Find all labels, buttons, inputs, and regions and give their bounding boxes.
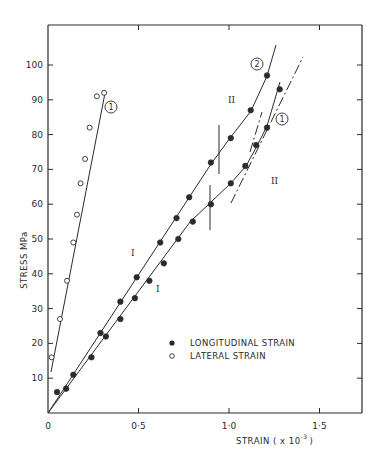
- longitudinal-data-point: [118, 299, 124, 305]
- y-tick-label: 30: [32, 304, 44, 314]
- longitudinal-data-point: [54, 389, 60, 395]
- stress-strain-chart: 102030405060708090100 00·51·01·5 STRESS …: [0, 0, 379, 463]
- longitudinal-data-point: [71, 372, 77, 378]
- lateral-data-point: [65, 278, 70, 283]
- longitudinal-data-point: [242, 163, 248, 169]
- longitudinal-data-point: [89, 355, 95, 361]
- longitudinal-data-point: [228, 135, 234, 141]
- longitudinal-data-point: [208, 160, 214, 166]
- longitudinal-data-point: [103, 334, 109, 340]
- stage-I-label-curve-2: I: [131, 248, 135, 258]
- legend-label-longitudinal: LONGITUDINAL STRAIN: [190, 338, 295, 348]
- lateral-data-point: [83, 156, 88, 161]
- svg-text:2: 2: [254, 60, 259, 69]
- y-tick-label: 40: [32, 269, 44, 279]
- lateral-data-point: [78, 181, 83, 186]
- longitudinal-data-point: [186, 194, 192, 200]
- svg-text:1: 1: [279, 115, 284, 124]
- longitudinal-data-point: [253, 142, 259, 148]
- y-tick-label: 70: [32, 164, 44, 174]
- longitudinal-data-point: [134, 274, 140, 280]
- lateral-data-point: [94, 94, 99, 99]
- longitudinal-data-point: [176, 236, 182, 242]
- stage-II-label-curve-2: II: [228, 95, 236, 105]
- longitudinal-data-point: [161, 261, 167, 267]
- longitudinal-data-point: [63, 386, 69, 392]
- lateral-data-point: [57, 317, 62, 322]
- y-tick-label: 50: [32, 234, 44, 244]
- legend-open-marker: [170, 354, 175, 359]
- lateral-data-point: [71, 240, 76, 245]
- y-tick-label: 100: [26, 60, 43, 70]
- circled-label-longitudinal-1: 1: [276, 113, 288, 125]
- longitudinal-data-point: [208, 201, 214, 207]
- legend-filled-marker: [169, 340, 174, 345]
- y-tick-label: 10: [32, 373, 44, 383]
- longitudinal-data-point: [147, 278, 153, 284]
- lateral-data-point: [74, 212, 79, 217]
- legend: LONGITUDINAL STRAIN LATERAL STRAIN: [169, 338, 295, 361]
- y-tick-label: 90: [32, 95, 44, 105]
- longitudinal-data-point: [277, 87, 283, 93]
- stage-II-label-curve-1: II: [271, 176, 279, 186]
- y-tick-label: 80: [32, 130, 44, 140]
- lateral-data-point: [87, 125, 92, 130]
- longitudinal-data-point: [118, 316, 124, 322]
- longitudinal-1-fit-line: [48, 82, 280, 413]
- x-tick-label: 0: [45, 421, 51, 431]
- lateral-fit-line: [51, 93, 105, 372]
- longitudinal-data-point: [98, 330, 104, 336]
- lateral-data-point: [49, 355, 54, 360]
- lateral-data-point: [102, 90, 107, 95]
- y-tick-label: 20: [32, 338, 44, 348]
- longitudinal-data-point: [174, 215, 180, 221]
- longitudinal-data-point: [132, 295, 138, 301]
- y-axis-title: STRESS MPa: [19, 231, 29, 289]
- circled-label-lateral-1: 1: [105, 101, 117, 113]
- x-tick-label: 1·0: [222, 421, 237, 431]
- longitudinal-data-point: [190, 219, 196, 225]
- svg-text:1: 1: [108, 103, 113, 112]
- y-tick-label: 60: [32, 199, 44, 209]
- x-tick-label: 0·5: [131, 421, 145, 431]
- longitudinal-data-point: [228, 181, 234, 187]
- longitudinal-data-point: [264, 125, 270, 131]
- circled-label-longitudinal-2: 2: [251, 58, 263, 70]
- longitudinal-data-point: [157, 240, 163, 246]
- longitudinal-data-point: [264, 73, 270, 79]
- legend-label-lateral: LATERAL STRAIN: [190, 351, 266, 361]
- longitudinal-data-point: [248, 107, 254, 113]
- x-tick-label: 1·5: [312, 421, 326, 431]
- x-axis-title: STRAIN ( x 10-3): [236, 433, 313, 446]
- stage-I-label-curve-1: I: [156, 284, 160, 294]
